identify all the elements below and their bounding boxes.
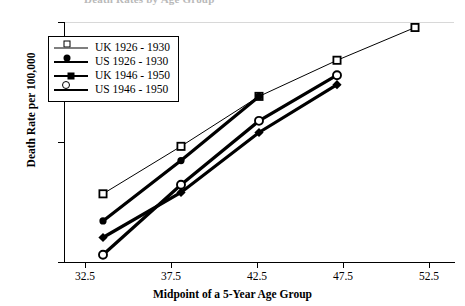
circle-filled-marker [177, 157, 184, 164]
series-layer [0, 0, 465, 306]
series-line [103, 85, 337, 238]
circle-open-marker [255, 117, 263, 125]
square-open-marker [177, 143, 184, 150]
square-open-marker [99, 190, 106, 197]
series-3 [98, 80, 341, 242]
circle-filled-marker [255, 93, 262, 100]
square-open-marker [411, 24, 418, 31]
circle-open-marker [177, 181, 185, 189]
chart-root: Death Rates by Age Group 100 10 1 Death … [0, 0, 465, 306]
series-1 [99, 24, 418, 198]
series-line [103, 75, 337, 255]
circle-open-marker [99, 251, 107, 259]
series-2 [99, 93, 262, 225]
circle-filled-marker [99, 217, 106, 224]
square-open-marker [333, 57, 340, 64]
circle-open-marker [333, 71, 341, 79]
series-4 [99, 71, 341, 258]
series-line [103, 28, 415, 194]
